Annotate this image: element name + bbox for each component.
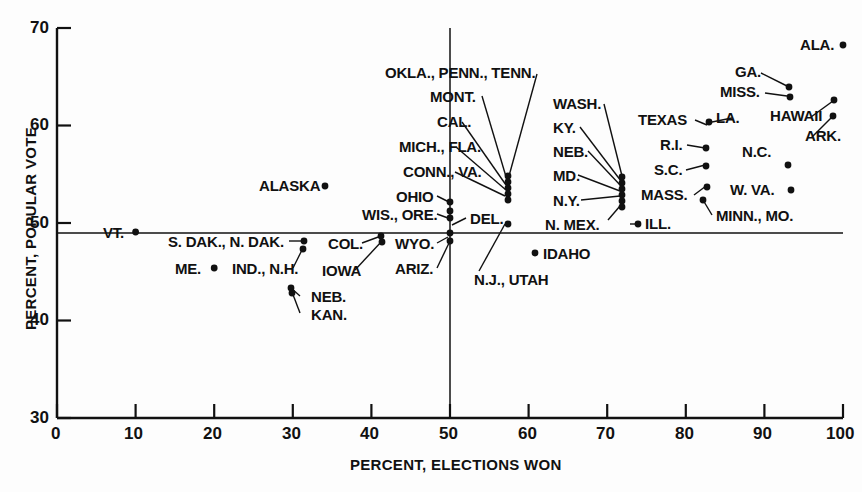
label-kan: KAN.	[311, 307, 347, 322]
label-del: DEL.	[470, 211, 503, 226]
x-tick-100: 100	[826, 424, 854, 444]
x-tick-80: 80	[675, 424, 694, 444]
point-mont	[505, 179, 512, 186]
point-ohio	[447, 199, 454, 206]
point-ill	[635, 221, 642, 228]
point-nmex	[619, 204, 626, 211]
label-wva: W. VA.	[730, 182, 774, 197]
label-nc: N.C.	[742, 144, 771, 159]
x-tick-10: 10	[124, 424, 143, 444]
point-sdak-ndak	[301, 238, 308, 245]
y-axis-ticks	[57, 28, 71, 418]
point-ny	[619, 198, 626, 205]
x-tick-50: 50	[439, 424, 458, 444]
scatter-plot-figure: 70 60 50 40 30 0 10 20 30 40 50 60 70 80…	[0, 0, 862, 492]
point-hawaii	[831, 97, 838, 104]
label-la: LA.	[716, 110, 740, 125]
point-mich-fla	[505, 191, 512, 198]
label-ind-nh: IND., N.H.	[232, 261, 298, 276]
point-me	[211, 265, 218, 272]
label-conn-va: CONN., VA.	[403, 164, 482, 179]
point-wyo	[447, 230, 454, 237]
label-ark: ARK.	[805, 128, 841, 143]
point-nc	[785, 162, 792, 169]
label-alaska: ALASKA	[259, 178, 320, 193]
label-ky: KY.	[553, 120, 576, 135]
label-vt: VT.	[103, 225, 124, 240]
label-col: COL.	[328, 236, 363, 251]
label-sc: S.C.	[654, 162, 682, 177]
x-tick-90: 90	[753, 424, 772, 444]
point-wash	[619, 174, 626, 181]
point-cal	[505, 185, 512, 192]
label-iowa: IOWA	[322, 263, 361, 278]
y-tick-70: 70	[30, 18, 49, 38]
label-mass: MASS.	[641, 187, 688, 202]
point-kan	[289, 290, 296, 297]
point-ga	[786, 84, 793, 91]
label-cal: CAL.	[437, 114, 471, 129]
point-texas-la	[706, 119, 713, 126]
point-wis-ore	[447, 208, 454, 215]
point-ind-nh	[300, 246, 307, 253]
point-md	[619, 192, 626, 199]
x-tick-20: 20	[203, 424, 222, 444]
label-nmex: N. MEX.	[545, 217, 599, 232]
point-okla-penn-tenn	[505, 173, 512, 180]
label-ny: N.Y.	[553, 193, 580, 208]
x-tick-60: 60	[518, 424, 537, 444]
label-wyo: WYO.	[395, 236, 434, 251]
point-del	[447, 215, 454, 222]
point-ark	[830, 113, 837, 120]
x-axis-title: PERCENT, ELECTIONS WON	[350, 456, 562, 473]
label-miss: MISS.	[720, 84, 760, 99]
y-axis-title: PERCENT, POPULAR VOTE	[22, 127, 39, 330]
point-neb-right	[619, 186, 626, 193]
label-ri: R.I.	[660, 137, 683, 152]
label-ohio: OHIO	[396, 189, 434, 204]
x-tick-30: 30	[282, 424, 301, 444]
label-mont: MONT.	[430, 89, 476, 104]
label-hawaii: HAWAII	[770, 108, 822, 123]
point-mass	[704, 184, 711, 191]
point-col	[378, 233, 385, 240]
label-nj-utah: N.J., UTAH	[474, 272, 548, 287]
label-neb-right: NEB.	[553, 144, 588, 159]
point-ariz	[447, 238, 454, 245]
y-tick-30: 30	[30, 408, 49, 428]
point-wva	[788, 187, 795, 194]
label-ariz: ARIZ.	[395, 261, 433, 276]
label-wis-ore: WIS., ORE.	[362, 207, 438, 222]
point-iowa	[379, 239, 386, 246]
x-tick-0: 0	[51, 424, 60, 444]
label-ala: ALA.	[800, 37, 834, 52]
point-ri	[703, 145, 710, 152]
label-md: MD.	[553, 168, 580, 183]
label-sdak-ndak: S. DAK., N. DAK.	[168, 234, 284, 249]
point-conn-va	[505, 197, 512, 204]
point-ky	[619, 180, 626, 187]
label-okla-penn-tenn: OKLA., PENN., TENN.	[385, 65, 535, 80]
point-idaho	[532, 250, 539, 257]
label-wash: WASH.	[553, 96, 601, 111]
point-miss	[787, 94, 794, 101]
label-idaho: IDAHO	[543, 246, 590, 261]
point-nj-utah	[505, 221, 512, 228]
label-mich-fla: MICH., FLA.	[399, 139, 481, 154]
label-neb-left: NEB.	[311, 289, 346, 304]
point-minn-mo	[700, 197, 707, 204]
point-vt	[132, 229, 139, 236]
point-alaska	[322, 183, 329, 190]
label-texas: TEXAS	[638, 112, 687, 127]
x-tick-70: 70	[596, 424, 615, 444]
label-me: ME.	[175, 261, 201, 276]
point-sc	[703, 163, 710, 170]
label-ga: GA.	[735, 64, 761, 79]
x-tick-40: 40	[360, 424, 379, 444]
label-ill: ILL.	[645, 216, 671, 231]
label-minn-mo: MINN., MO.	[716, 208, 793, 223]
point-ala	[840, 42, 847, 49]
